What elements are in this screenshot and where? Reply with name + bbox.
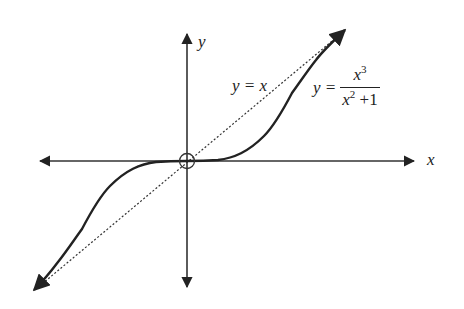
- function-curve: [34, 30, 345, 290]
- curve-equation-label: y = x3 x2 +1: [313, 65, 380, 110]
- denominator-base: x: [342, 90, 350, 109]
- numerator-base: x: [353, 65, 361, 84]
- denominator-tail: +1: [355, 90, 377, 109]
- numerator-exponent: 3: [361, 63, 367, 75]
- y-axis-label: y: [198, 33, 206, 50]
- equation-lhs: y =: [313, 78, 336, 98]
- graph-canvas: [0, 0, 464, 309]
- x-axis-label: x: [427, 151, 435, 168]
- line-label: y = x: [232, 77, 267, 94]
